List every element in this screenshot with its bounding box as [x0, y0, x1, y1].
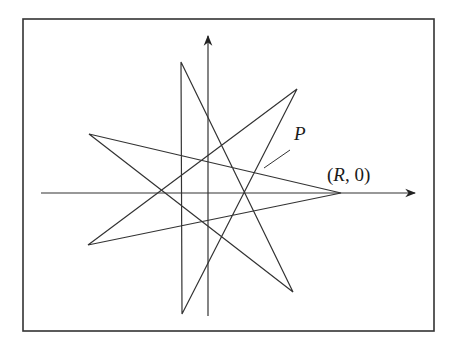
star-polygon [88, 62, 341, 314]
label-point-r0: (R, 0) [327, 165, 370, 184]
var-r: R [333, 164, 345, 185]
star-diagram [0, 0, 461, 348]
label-point-p: P [294, 124, 306, 143]
coord-rest: , 0) [345, 164, 370, 185]
p-pointer-line [264, 150, 290, 168]
figure-frame [23, 19, 434, 331]
